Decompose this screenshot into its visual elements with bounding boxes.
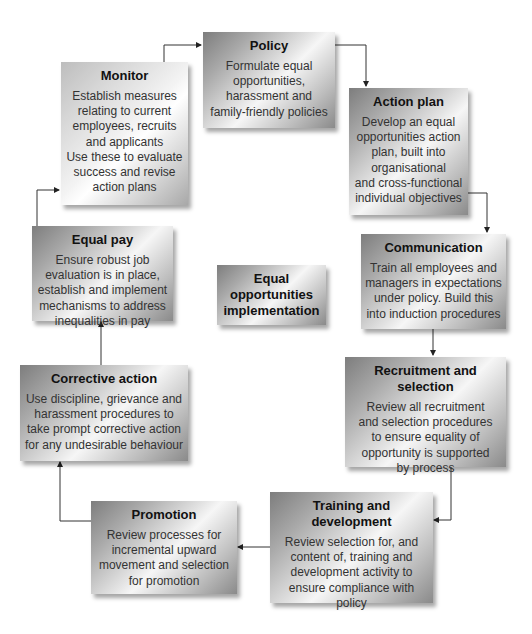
equal-pay-description: Ensure robust job evaluation is in place… [36, 253, 169, 329]
equal-opportunities-cycle-diagram: Policy Formulate equal opportunities, ha… [0, 0, 532, 634]
arrow-equal-pay-to-monitor [37, 190, 59, 226]
action-plan-description: Develop an equal opportunities action pl… [353, 115, 464, 206]
corrective-action-line: for any undesirable behaviour [24, 438, 184, 453]
center-line: implementation [223, 303, 319, 319]
policy-line: family-friendly policies [207, 105, 331, 120]
corrective-action-title: Corrective action [24, 371, 184, 387]
training-development-box: Training and development Review selectio… [270, 492, 433, 603]
communication-line: into induction procedures [365, 307, 502, 322]
arrow-action-plan-to-communication [468, 193, 487, 232]
policy-line: harassment and [207, 89, 331, 104]
equal-pay-line: mechanisms to address [36, 299, 169, 314]
arrow-promotion-to-corrective [60, 462, 91, 521]
action-plan-line: and cross-functional [353, 176, 464, 191]
promotion-description: Review processes for incremental upward … [95, 528, 233, 589]
recruitment-line: Review all recruitment [349, 400, 502, 415]
action-plan-title: Action plan [353, 94, 464, 110]
action-plan-line: plan, built into [353, 145, 464, 160]
corrective-action-box: Corrective action Use discipline, grieva… [20, 365, 188, 461]
monitor-box: Monitor Establish measures relating to c… [61, 62, 188, 205]
recruitment-selection-box: Recruitment and selection Review all rec… [345, 357, 506, 467]
action-plan-line: opportunities action [353, 130, 464, 145]
corrective-action-description: Use discipline, grievance and harassment… [24, 392, 184, 453]
recruitment-line: and selection procedures [349, 415, 502, 430]
promotion-line: movement and selection [95, 558, 233, 573]
equal-pay-line: evaluation is in place, [36, 268, 169, 283]
policy-line: Formulate equal [207, 59, 331, 74]
promotion-line: Review processes for [95, 528, 233, 543]
training-development-description: Review selection for, and content of, tr… [274, 535, 429, 611]
promotion-box: Promotion Review processes for increment… [91, 501, 237, 594]
action-plan-line: organisational [353, 161, 464, 176]
training-development-title: Training and development [274, 498, 429, 530]
communication-title: Communication [365, 240, 502, 256]
center-equal-opportunities-box: Equal opportunities implementation [217, 265, 326, 325]
action-plan-line: Develop an equal [353, 115, 464, 130]
corrective-action-line: Use discipline, grievance and [24, 392, 184, 407]
arrow-policy-to-action-plan [335, 45, 366, 86]
equal-pay-line: establish and implement [36, 283, 169, 298]
recruitment-selection-description: Review all recruitment and selection pro… [349, 400, 502, 476]
corrective-action-line: harassment procedures to [24, 407, 184, 422]
center-line: Equal [223, 271, 319, 287]
monitor-line: employees, recruits [65, 119, 184, 134]
policy-title: Policy [207, 38, 331, 54]
equal-pay-box: Equal pay Ensure robust job evaluation i… [32, 226, 173, 321]
training-line: ensure compliance with [274, 581, 429, 596]
recruitment-line: by process [349, 461, 502, 476]
monitor-line: and applicants [65, 135, 184, 150]
communication-line: Train all employees and [365, 261, 502, 276]
equal-pay-line: inequalities in pay [36, 314, 169, 329]
communication-description: Train all employees and managers in expe… [365, 261, 502, 322]
equal-pay-title: Equal pay [36, 232, 169, 248]
promotion-line: incremental upward [95, 543, 233, 558]
monitor-title: Monitor [65, 68, 184, 84]
equal-pay-line: Ensure robust job [36, 253, 169, 268]
communication-line: managers in expectations [365, 276, 502, 291]
center-title: Equal opportunities implementation [223, 271, 319, 319]
monitor-line: relating to current [65, 104, 184, 119]
recruitment-selection-title: Recruitment and selection [349, 363, 502, 395]
center-line: opportunities [223, 287, 319, 303]
action-plan-line: individual objectives [353, 191, 464, 206]
policy-box: Policy Formulate equal opportunities, ha… [203, 32, 335, 128]
communication-line: under policy. Build this [365, 291, 502, 306]
arrow-monitor-to-policy [164, 45, 201, 62]
recruitment-line: opportunity is supported [349, 446, 502, 461]
monitor-line: Use these to evaluate [65, 150, 184, 165]
monitor-line: action plans [65, 180, 184, 195]
training-line: Review selection for, and [274, 535, 429, 550]
promotion-title: Promotion [95, 507, 233, 523]
monitor-line: success and revise [65, 165, 184, 180]
training-line: content of, training and [274, 550, 429, 565]
monitor-line: Establish measures [65, 89, 184, 104]
policy-description: Formulate equal opportunities, harassmen… [207, 59, 331, 120]
monitor-description: Establish measures relating to current e… [65, 89, 184, 195]
training-line: development activity to [274, 565, 429, 580]
training-line: policy [274, 596, 429, 611]
communication-box: Communication Train all employees and ma… [361, 234, 506, 329]
recruitment-line: to ensure equality of [349, 430, 502, 445]
action-plan-box: Action plan Develop an equal opportuniti… [349, 88, 468, 215]
promotion-line: for promotion [95, 574, 233, 589]
policy-line: opportunities, [207, 74, 331, 89]
corrective-action-line: take prompt corrective action [24, 422, 184, 437]
